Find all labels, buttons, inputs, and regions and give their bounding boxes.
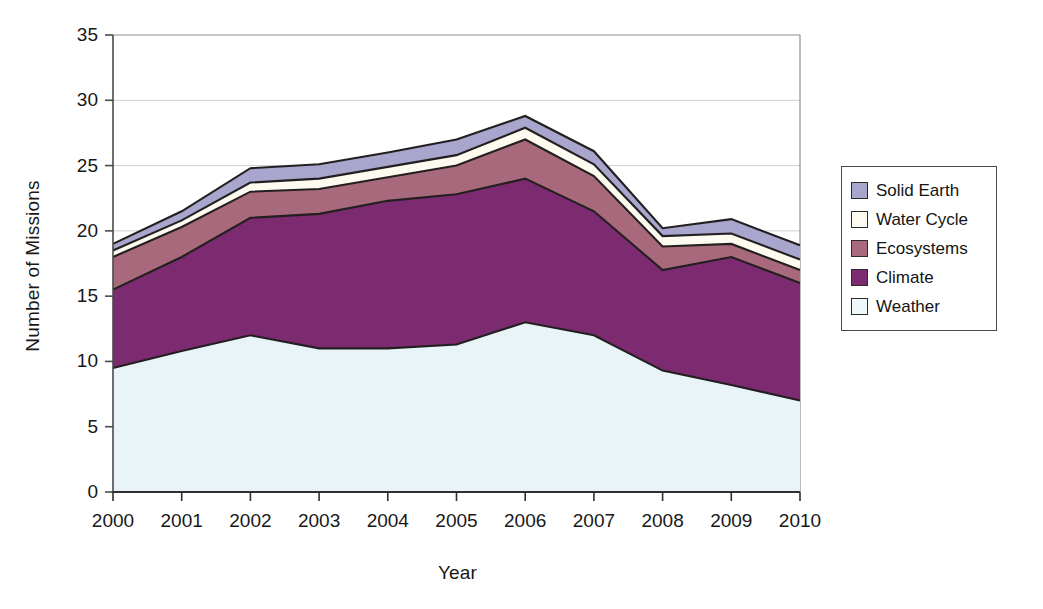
legend-item-label: Weather <box>876 298 940 315</box>
y-tick-label-30: 30 <box>52 89 98 111</box>
x-tick-label-2008: 2008 <box>628 510 698 532</box>
legend-item-climate[interactable]: Climate <box>851 263 988 292</box>
x-tick-label-2005: 2005 <box>422 510 492 532</box>
y-tick-label-10: 10 <box>52 350 98 372</box>
legend-swatch-icon <box>851 240 868 257</box>
y-tick-label-25: 25 <box>52 155 98 177</box>
stacked-area-chart: Number of Missions Year 05101520253035 2… <box>0 0 1043 609</box>
chart-legend: Solid EarthWater CycleEcosystemsClimateW… <box>841 166 997 331</box>
legend-item-label: Climate <box>876 269 934 286</box>
y-tick-label-20: 20 <box>52 220 98 242</box>
x-tick-label-2010: 2010 <box>765 510 835 532</box>
legend-item-label: Solid Earth <box>876 182 959 199</box>
x-tick-label-2000: 2000 <box>78 510 148 532</box>
legend-swatch-icon <box>851 298 868 315</box>
legend-swatch-icon <box>851 211 868 228</box>
x-tick-label-2003: 2003 <box>284 510 354 532</box>
legend-item-solid-earth[interactable]: Solid Earth <box>851 176 988 205</box>
x-tick-label-2007: 2007 <box>559 510 629 532</box>
y-tick-label-15: 15 <box>52 285 98 307</box>
y-tick-label-35: 35 <box>52 24 98 46</box>
y-tick-label-0: 0 <box>52 481 98 503</box>
x-tick-label-2009: 2009 <box>696 510 766 532</box>
x-tick-label-2001: 2001 <box>147 510 217 532</box>
x-tick-label-2002: 2002 <box>215 510 285 532</box>
legend-item-water-cycle[interactable]: Water Cycle <box>851 205 988 234</box>
legend-item-label: Ecosystems <box>876 240 968 257</box>
x-tick-label-2006: 2006 <box>490 510 560 532</box>
legend-item-label: Water Cycle <box>876 211 968 228</box>
legend-item-weather[interactable]: Weather <box>851 292 988 321</box>
y-tick-label-5: 5 <box>52 416 98 438</box>
legend-swatch-icon <box>851 269 868 286</box>
legend-swatch-icon <box>851 182 868 199</box>
x-tick-label-2004: 2004 <box>353 510 423 532</box>
legend-item-ecosystems[interactable]: Ecosystems <box>851 234 988 263</box>
